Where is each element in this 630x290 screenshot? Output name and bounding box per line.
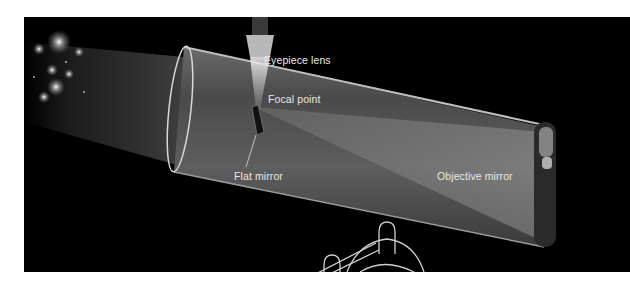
label-focal-point: Focal point <box>268 93 320 105</box>
telescope-mount <box>302 222 424 272</box>
label-objective-mirror: Objective mirror <box>437 170 513 182</box>
objective-mirror-cap <box>534 122 556 247</box>
label-flat-mirror: Flat mirror <box>234 170 283 182</box>
diagram-panel: Eyepiece lens Focal point Flat mirror Ob… <box>24 17 630 272</box>
incoming-light-beam <box>24 42 184 167</box>
label-eyepiece-lens: Eyepiece lens <box>264 54 331 66</box>
